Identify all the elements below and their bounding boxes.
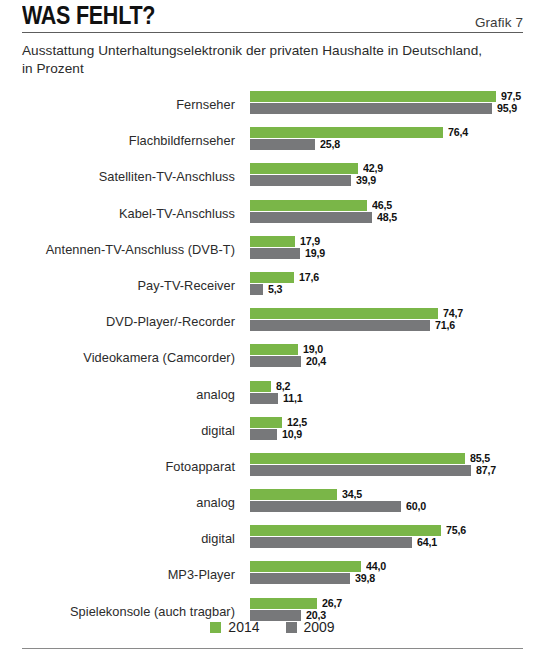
bar-group: 85,587,7 bbox=[250, 451, 523, 487]
page-title: WAS FEHLT? bbox=[22, 1, 155, 29]
bar-value-label: 34,5 bbox=[342, 487, 362, 500]
bar-value-label: 25,8 bbox=[320, 137, 340, 150]
bar-2009 bbox=[250, 537, 412, 548]
bar-group: 97,595,9 bbox=[250, 89, 523, 125]
bar-2014 bbox=[250, 344, 298, 355]
bar-value-label: 10,9 bbox=[282, 427, 302, 440]
bar-2014 bbox=[250, 381, 271, 392]
legend-label: 2009 bbox=[304, 619, 335, 635]
category-label: Fernseher bbox=[22, 97, 235, 112]
bar-value-label: 60,0 bbox=[406, 499, 426, 512]
chart-sheet: WAS FEHLT? Grafik 7 Ausstattung Unterhal… bbox=[0, 0, 545, 657]
bar-2009 bbox=[250, 320, 430, 331]
bar-value-label: 75,6 bbox=[446, 523, 466, 536]
bar-group: 8,211,1 bbox=[250, 379, 523, 415]
bar-value-label: 95,9 bbox=[497, 101, 517, 114]
bar-group: 12,510,9 bbox=[250, 415, 523, 451]
bar-group: 76,425,8 bbox=[250, 125, 523, 161]
bar-2014 bbox=[250, 525, 441, 536]
bar-2014 bbox=[250, 489, 337, 500]
bar-2009 bbox=[250, 103, 492, 114]
bar-group: 46,548,5 bbox=[250, 198, 523, 234]
bar-value-label: 39,8 bbox=[355, 571, 375, 584]
bar-group: 75,664,1 bbox=[250, 523, 523, 559]
header: WAS FEHLT? Grafik 7 bbox=[22, 0, 523, 32]
chart-row: MP3-Player44,039,8 bbox=[22, 559, 523, 595]
bar-value-label: 20,4 bbox=[306, 354, 326, 367]
bar-value-label: 39,9 bbox=[356, 173, 376, 186]
bar-2009 bbox=[250, 429, 277, 440]
bar-group: 17,65,3 bbox=[250, 270, 523, 306]
bar-group: 44,039,8 bbox=[250, 559, 523, 595]
bar-2009 bbox=[250, 393, 278, 404]
chart-row: Antennen-TV-Anschluss (DVB-T)17,919,9 bbox=[22, 234, 523, 270]
bar-2009 bbox=[250, 212, 372, 223]
bar-value-label: 87,7 bbox=[476, 463, 496, 476]
bar-value-label: 76,4 bbox=[448, 125, 468, 138]
bar-2014 bbox=[250, 308, 438, 319]
bar-2009 bbox=[250, 501, 401, 512]
category-label: Kabel-TV-Anschluss bbox=[22, 206, 235, 221]
bar-2009 bbox=[250, 465, 471, 476]
bar-2009 bbox=[250, 175, 351, 186]
figure-label: Grafik 7 bbox=[475, 15, 523, 30]
bar-2014 bbox=[250, 561, 361, 572]
bar-2014 bbox=[250, 236, 295, 247]
bar-value-label: 19,9 bbox=[305, 246, 325, 259]
bar-group: 42,939,9 bbox=[250, 161, 523, 197]
bar-value-label: 17,6 bbox=[299, 270, 319, 283]
bar-2009 bbox=[250, 139, 315, 150]
legend-swatch-icon bbox=[210, 622, 221, 633]
category-label: digital bbox=[22, 423, 235, 438]
chart-row: Kabel-TV-Anschluss46,548,5 bbox=[22, 198, 523, 234]
bar-value-label: 71,6 bbox=[435, 318, 455, 331]
bar-2014 bbox=[250, 200, 367, 211]
chart-row: digital12,510,9 bbox=[22, 415, 523, 451]
chart-row: Videokamera (Camcorder)19,020,4 bbox=[22, 342, 523, 378]
chart-subtitle: Ausstattung Unterhaltungselektronik der … bbox=[22, 42, 492, 77]
category-label: Antennen-TV-Anschluss (DVB-T) bbox=[22, 242, 235, 257]
footer-divider bbox=[22, 648, 523, 649]
bar-group: 17,919,9 bbox=[250, 234, 523, 270]
category-label: MP3-Player bbox=[22, 567, 235, 582]
legend-item-2014: 2014 bbox=[210, 619, 259, 635]
legend-swatch-icon bbox=[286, 622, 297, 633]
bar-2009 bbox=[250, 356, 301, 367]
bar-group: 34,560,0 bbox=[250, 487, 523, 523]
bar-value-label: 5,3 bbox=[268, 282, 282, 295]
chart-row: Fotoapparat85,587,7 bbox=[22, 451, 523, 487]
category-label: analog bbox=[22, 495, 235, 510]
category-label: Fotoapparat bbox=[22, 459, 235, 474]
chart-row: Fernseher97,595,9 bbox=[22, 89, 523, 125]
category-label: DVD-Player/-Recorder bbox=[22, 314, 235, 329]
bar-2014 bbox=[250, 163, 358, 174]
category-label: Satelliten-TV-Anschluss bbox=[22, 169, 235, 184]
category-label: digital bbox=[22, 531, 235, 546]
bar-value-label: 11,1 bbox=[283, 391, 302, 404]
bar-2014 bbox=[250, 127, 443, 138]
bar-2009 bbox=[250, 284, 263, 295]
bar-2009 bbox=[250, 573, 350, 584]
bar-2009 bbox=[250, 248, 300, 259]
bar-2014 bbox=[250, 91, 496, 102]
chart-row: Flachbildfernseher76,425,8 bbox=[22, 125, 523, 161]
category-label: Spielekonsole (auch tragbar) bbox=[22, 604, 235, 619]
legend-item-2009: 2009 bbox=[286, 619, 335, 635]
bar-2014 bbox=[250, 417, 282, 428]
chart-legend: 20142009 bbox=[0, 619, 545, 635]
chart-row: analog34,560,0 bbox=[22, 487, 523, 523]
chart-row: Pay-TV-Receiver17,65,3 bbox=[22, 270, 523, 306]
chart-row: digital75,664,1 bbox=[22, 523, 523, 559]
bar-group: 74,771,6 bbox=[250, 306, 523, 342]
header-divider bbox=[22, 32, 523, 33]
bar-2014 bbox=[250, 453, 465, 464]
bar-value-label: 48,5 bbox=[377, 210, 397, 223]
legend-label: 2014 bbox=[228, 619, 259, 635]
chart-row: analog8,211,1 bbox=[22, 379, 523, 415]
category-label: Videokamera (Camcorder) bbox=[22, 350, 235, 365]
bar-group: 19,020,4 bbox=[250, 342, 523, 378]
category-label: Flachbildfernseher bbox=[22, 133, 235, 148]
chart-row: DVD-Player/-Recorder74,771,6 bbox=[22, 306, 523, 342]
category-label: Pay-TV-Receiver bbox=[22, 278, 235, 293]
chart-row: Satelliten-TV-Anschluss42,939,9 bbox=[22, 161, 523, 197]
